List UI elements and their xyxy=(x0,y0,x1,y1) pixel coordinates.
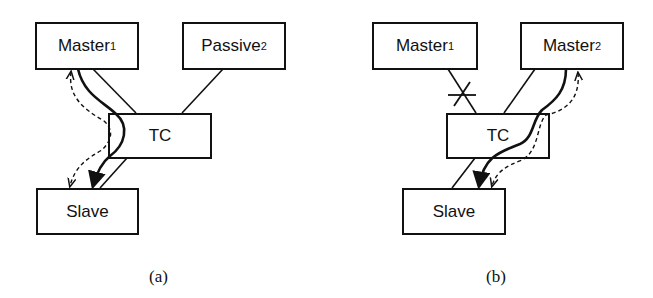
broken-link-cross-icon xyxy=(448,82,476,106)
node-label: Master xyxy=(543,36,595,56)
node-label: Slave xyxy=(66,202,109,222)
edge-passive2-tc xyxy=(182,69,223,113)
node-label: Master xyxy=(58,36,110,56)
edge-master1-tc-broken xyxy=(448,69,476,113)
panel-b-tc-node: TC xyxy=(446,113,550,159)
panel-a-master1-node: Master1 xyxy=(35,22,139,70)
node-label: Master xyxy=(396,36,448,56)
panel-b-master1-node: Master1 xyxy=(372,22,478,70)
panel-b-slave-node: Slave xyxy=(402,188,506,235)
node-label: Passive xyxy=(201,36,261,56)
edge-master2-tc xyxy=(504,69,535,113)
panel-a-passive2-node: Passive2 xyxy=(182,22,286,70)
panel-b-master2-node: Master2 xyxy=(520,22,624,70)
node-label: Slave xyxy=(433,202,476,222)
node-label: TC xyxy=(149,126,172,146)
edge-master1-tc xyxy=(93,69,136,113)
panel-a-caption: (a) xyxy=(149,267,168,287)
panel-a-slave-node: Slave xyxy=(36,188,139,235)
edge-tc-slave xyxy=(452,158,475,188)
panel-a-tc-node: TC xyxy=(108,113,212,159)
node-label: TC xyxy=(487,126,510,146)
flow-dashed-master1-slave xyxy=(70,72,111,186)
panel-b-caption: (b) xyxy=(486,267,506,287)
